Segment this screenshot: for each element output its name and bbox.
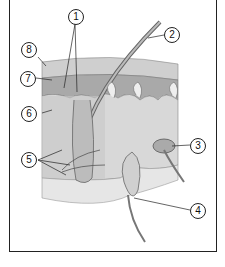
- label-4: 4: [190, 203, 206, 219]
- label-7: 7: [20, 71, 36, 87]
- label-3: 3: [190, 138, 206, 154]
- label-6: 6: [21, 106, 37, 122]
- label-8: 8: [21, 42, 37, 58]
- label-1: 1: [68, 9, 84, 25]
- label-2: 2: [164, 27, 180, 43]
- label-5: 5: [21, 152, 37, 168]
- skin-cross-section-illustration: [0, 0, 225, 267]
